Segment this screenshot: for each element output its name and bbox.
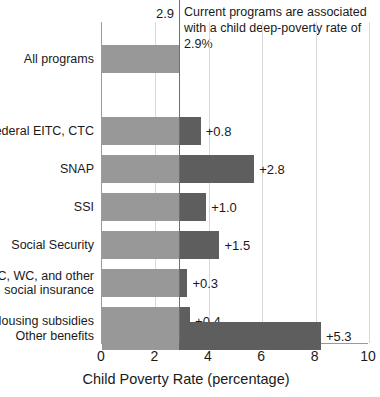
bar-segment-base [102, 269, 179, 297]
bar-segment-base [102, 117, 179, 145]
bar-segment-increment [179, 269, 187, 297]
bar-row: +0.8 [102, 117, 369, 145]
bar-row: +1.5 [102, 231, 369, 259]
baseline-value-label: 2.9 [146, 6, 174, 21]
bar-value-label: +1.5 [224, 239, 250, 252]
bar-value-label: +2.8 [259, 163, 285, 176]
bar-value-label: +0.3 [192, 277, 218, 290]
bar-row: +0.3 [102, 269, 369, 297]
x-tick-label: 6 [241, 348, 281, 364]
bar-segment-increment [179, 117, 200, 145]
bar-segment-base [102, 45, 179, 73]
bar-segment-base [102, 231, 179, 259]
x-tick-label: 8 [295, 348, 335, 364]
plot-area: +0.8+2.8+1.0+1.5+0.3+0.4+5.3 [101, 22, 368, 344]
category-label: Other benefits [0, 329, 94, 343]
bar-value-label: +0.8 [206, 125, 232, 138]
gridline [369, 22, 370, 343]
category-label: UC, WC, and other social insurance [0, 269, 94, 297]
x-tick-label: 2 [134, 348, 174, 364]
bar-row [102, 45, 369, 73]
bar-row: +1.0 [102, 193, 369, 221]
bar-row: +2.8 [102, 155, 369, 183]
bar-segment-increment [179, 193, 206, 221]
x-tick-label: 10 [348, 348, 380, 364]
bar-segment-base [102, 322, 179, 350]
bar-segment-base [102, 155, 179, 183]
category-label: Federal EITC, CTC [0, 124, 94, 138]
x-tick-label: 0 [81, 348, 121, 364]
baseline-reference-line [179, 0, 180, 343]
bar-segment-base [102, 193, 179, 221]
category-label: Housing subsidies [0, 314, 94, 328]
category-label: SSI [0, 200, 94, 214]
bar-segment-increment [179, 322, 321, 350]
x-tick-label: 4 [188, 348, 228, 364]
bar-segment-increment [179, 231, 219, 259]
x-axis-title: Child Poverty Rate (percentage) [0, 371, 372, 387]
category-label: All programs [0, 52, 94, 66]
bar-value-label: +1.0 [211, 201, 237, 214]
category-label: Social Security [0, 238, 94, 252]
category-label: SNAP [0, 162, 94, 176]
bar-row: +5.3 [102, 322, 369, 350]
bar-segment-increment [179, 155, 254, 183]
bar-value-label: +5.3 [326, 330, 352, 343]
